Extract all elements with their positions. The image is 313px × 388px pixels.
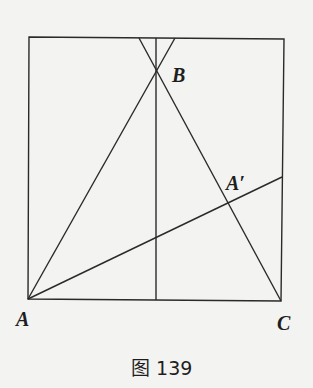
point-label-a: A [14, 308, 29, 330]
point-label-b: B [171, 64, 185, 86]
geometry-figure: B A′ A C 图 139 [0, 0, 313, 388]
line-A-through-A-prime [28, 177, 282, 299]
point-label-c: C [277, 312, 291, 334]
line-A-through-B [28, 38, 175, 299]
line-C-through-B [139, 38, 281, 301]
figure-caption: 图 139 [131, 357, 192, 379]
point-label-a-prime: A′ [224, 172, 245, 194]
